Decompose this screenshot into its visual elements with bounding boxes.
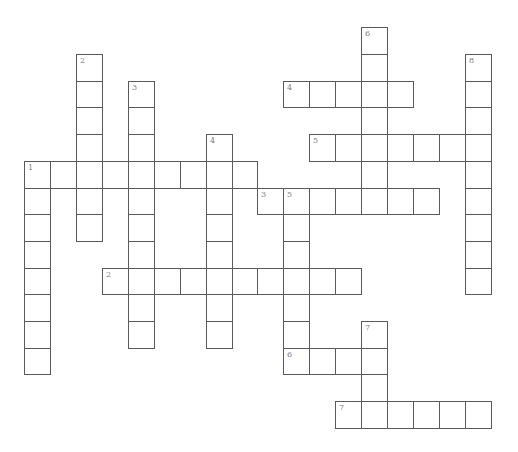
cell-letter-input[interactable] — [284, 322, 309, 348]
crossword-cell[interactable] — [309, 268, 336, 295]
crossword-cell[interactable]: 6 — [283, 348, 310, 375]
crossword-cell[interactable] — [387, 401, 414, 429]
crossword-cell[interactable] — [206, 161, 233, 189]
cell-letter-input[interactable] — [129, 242, 154, 268]
crossword-cell[interactable]: 4 — [206, 134, 233, 162]
crossword-cell[interactable] — [361, 188, 388, 215]
cell-letter-input[interactable] — [466, 189, 491, 214]
cell-letter-input[interactable] — [362, 82, 387, 107]
crossword-cell[interactable] — [361, 134, 388, 162]
crossword-cell[interactable] — [257, 268, 284, 295]
crossword-cell[interactable] — [439, 134, 466, 162]
cell-letter-input[interactable] — [388, 402, 413, 428]
crossword-cell[interactable] — [335, 81, 362, 108]
cell-letter-input[interactable] — [466, 162, 491, 188]
crossword-cell[interactable] — [180, 268, 207, 295]
crossword-cell[interactable] — [465, 241, 492, 269]
crossword-cell[interactable] — [309, 81, 336, 108]
crossword-cell[interactable] — [24, 241, 51, 269]
crossword-cell[interactable] — [232, 268, 258, 295]
cell-letter-input[interactable] — [362, 322, 387, 348]
cell-letter-input[interactable] — [207, 135, 232, 161]
cell-letter-input[interactable] — [129, 108, 154, 134]
cell-letter-input[interactable] — [310, 135, 335, 161]
crossword-cell[interactable] — [283, 241, 310, 269]
crossword-cell[interactable] — [309, 348, 336, 375]
cell-letter-input[interactable] — [77, 55, 102, 81]
cell-letter-input[interactable] — [103, 269, 128, 294]
cell-letter-input[interactable] — [233, 162, 257, 188]
crossword-cell[interactable] — [24, 214, 51, 242]
crossword-cell[interactable] — [283, 214, 310, 242]
cell-letter-input[interactable] — [440, 402, 465, 428]
cell-letter-input[interactable] — [129, 135, 154, 161]
cell-letter-input[interactable] — [25, 242, 50, 268]
crossword-cell[interactable] — [283, 294, 310, 322]
crossword-cell[interactable] — [76, 188, 103, 215]
crossword-cell[interactable] — [465, 401, 492, 429]
cell-letter-input[interactable] — [362, 108, 387, 134]
cell-letter-input[interactable] — [466, 402, 491, 428]
cell-letter-input[interactable] — [362, 402, 387, 428]
crossword-cell[interactable] — [206, 321, 233, 349]
cell-letter-input[interactable] — [25, 295, 50, 321]
cell-letter-input[interactable] — [129, 295, 154, 321]
crossword-cell[interactable] — [465, 107, 492, 135]
cell-letter-input[interactable] — [466, 55, 491, 81]
crossword-cell[interactable] — [206, 294, 233, 322]
cell-letter-input[interactable] — [77, 215, 102, 241]
crossword-cell[interactable] — [465, 161, 492, 189]
cell-letter-input[interactable] — [336, 349, 361, 374]
cell-letter-input[interactable] — [466, 242, 491, 268]
cell-letter-input[interactable] — [310, 349, 335, 374]
cell-letter-input[interactable] — [207, 322, 232, 348]
cell-letter-input[interactable] — [25, 162, 50, 188]
cell-letter-input[interactable] — [129, 189, 154, 214]
cell-letter-input[interactable] — [25, 269, 50, 294]
crossword-cell[interactable] — [387, 134, 414, 162]
crossword-cell[interactable] — [413, 401, 440, 429]
cell-letter-input[interactable] — [336, 189, 361, 214]
crossword-cell[interactable] — [24, 321, 51, 349]
crossword-cell[interactable] — [465, 81, 492, 108]
cell-letter-input[interactable] — [414, 402, 439, 428]
crossword-cell[interactable] — [335, 348, 362, 375]
crossword-cell[interactable] — [128, 188, 155, 215]
cell-letter-input[interactable] — [207, 215, 232, 241]
cell-letter-input[interactable] — [233, 269, 257, 294]
cell-letter-input[interactable] — [51, 162, 76, 188]
cell-letter-input[interactable] — [77, 162, 102, 188]
cell-letter-input[interactable] — [388, 82, 413, 107]
cell-letter-input[interactable] — [466, 82, 491, 107]
crossword-cell[interactable] — [361, 161, 388, 189]
cell-letter-input[interactable] — [388, 135, 413, 161]
cell-letter-input[interactable] — [388, 189, 413, 214]
crossword-cell[interactable] — [24, 268, 51, 295]
crossword-cell[interactable]: 5 — [283, 188, 310, 215]
crossword-cell[interactable] — [361, 348, 388, 375]
crossword-cell[interactable] — [128, 321, 155, 349]
crossword-cell[interactable] — [465, 134, 492, 162]
cell-letter-input[interactable] — [207, 269, 232, 294]
cell-letter-input[interactable] — [336, 269, 361, 294]
cell-letter-input[interactable] — [414, 189, 439, 214]
crossword-cell[interactable] — [361, 107, 388, 135]
crossword-cell[interactable] — [206, 241, 233, 269]
crossword-cell[interactable] — [128, 241, 155, 269]
crossword-cell[interactable] — [76, 81, 103, 108]
crossword-cell[interactable] — [76, 134, 103, 162]
cell-letter-input[interactable] — [155, 162, 180, 188]
crossword-cell[interactable] — [361, 374, 388, 402]
cell-letter-input[interactable] — [25, 189, 50, 214]
cell-letter-input[interactable] — [25, 215, 50, 241]
cell-letter-input[interactable] — [25, 349, 50, 374]
crossword-cell[interactable] — [439, 401, 466, 429]
cell-letter-input[interactable] — [414, 135, 439, 161]
crossword-cell[interactable] — [154, 161, 181, 189]
crossword-cell[interactable]: 7 — [335, 401, 362, 429]
cell-letter-input[interactable] — [77, 189, 102, 214]
cell-letter-input[interactable] — [284, 349, 309, 374]
cell-letter-input[interactable] — [466, 269, 491, 294]
crossword-cell[interactable] — [154, 268, 181, 295]
crossword-cell[interactable] — [180, 161, 207, 189]
